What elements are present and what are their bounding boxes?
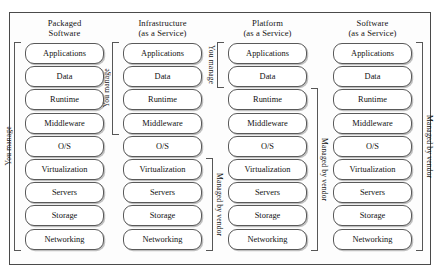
layer-box[interactable]: Middleware xyxy=(123,113,202,134)
layer-box[interactable]: O/S xyxy=(25,136,104,157)
column-header-line2: (as a Service) xyxy=(333,28,412,38)
layer-box[interactable]: Virtualization xyxy=(333,159,412,180)
layer-box[interactable]: Storage xyxy=(25,205,104,226)
bracket-platform-as-a-service-right xyxy=(311,88,318,250)
bracket-infrastructure-as-a-service-right xyxy=(206,158,213,251)
layer-box[interactable]: Virtualization xyxy=(123,159,202,180)
column-header-line1: Packaged xyxy=(25,18,104,28)
column-header-platform-as-a-service: Platform(as a Service) xyxy=(228,18,307,38)
column-infrastructure-as-a-service: Infrastructure(as a Service)Applications… xyxy=(123,13,202,264)
layer-box[interactable]: Data xyxy=(228,66,307,87)
bracket-label-platform-as-a-service-right: Managed by vendor xyxy=(320,88,329,250)
layer-box[interactable]: Data xyxy=(333,66,412,87)
bracket-label-packaged-software-left: You manage xyxy=(4,42,13,251)
bracket-packaged-software-left xyxy=(14,42,21,251)
layer-box[interactable]: Networking xyxy=(333,229,412,250)
layer-box[interactable]: Servers xyxy=(123,182,202,203)
layer-box[interactable]: Servers xyxy=(25,182,104,203)
layer-box[interactable]: Storage xyxy=(228,205,307,226)
layer-stack-platform-as-a-service: ApplicationsDataRuntimeMiddlewareO/SVirt… xyxy=(228,43,307,252)
layer-box[interactable]: O/S xyxy=(123,136,202,157)
layer-box[interactable]: Runtime xyxy=(333,89,412,110)
layer-box[interactable]: O/S xyxy=(228,136,307,157)
column-software-as-a-service: Software(as a Service)ApplicationsDataRu… xyxy=(333,13,412,264)
bracket-label-platform-as-a-service-left: You manage xyxy=(207,42,216,88)
layer-box[interactable]: Networking xyxy=(228,229,307,250)
layer-box[interactable]: Applications xyxy=(123,43,202,64)
column-packaged-software: PackagedSoftwareApplicationsDataRuntimeM… xyxy=(25,13,104,264)
layer-box[interactable]: Runtime xyxy=(228,89,307,110)
layer-box[interactable]: Storage xyxy=(123,205,202,226)
bracket-platform-as-a-service-left xyxy=(217,42,224,88)
layer-box[interactable]: Virtualization xyxy=(228,159,307,180)
column-header-software-as-a-service: Software(as a Service) xyxy=(333,18,412,38)
layer-box[interactable]: Servers xyxy=(228,182,307,203)
layer-box[interactable]: Runtime xyxy=(123,89,202,110)
layer-box[interactable]: Networking xyxy=(25,229,104,250)
bracket-software-as-a-service-right xyxy=(416,42,423,251)
layer-box[interactable]: Virtualization xyxy=(25,159,104,180)
column-header-line2: Software xyxy=(25,28,104,38)
layer-box[interactable]: Servers xyxy=(333,182,412,203)
layer-box[interactable]: Networking xyxy=(123,229,202,250)
layer-box[interactable]: Middleware xyxy=(228,113,307,134)
layer-box[interactable]: O/S xyxy=(333,136,412,157)
column-header-line1: Platform xyxy=(228,18,307,28)
layer-box[interactable]: Runtime xyxy=(25,89,104,110)
bracket-infrastructure-as-a-service-left xyxy=(112,42,119,135)
layer-box[interactable]: Applications xyxy=(333,43,412,64)
bracket-label-infrastructure-as-a-service-left: You manage xyxy=(102,42,111,135)
column-header-line2: (as a Service) xyxy=(123,28,202,38)
column-platform-as-a-service: Platform(as a Service)ApplicationsDataRu… xyxy=(228,13,307,264)
layer-box[interactable]: Middleware xyxy=(25,113,104,134)
layer-stack-packaged-software: ApplicationsDataRuntimeMiddlewareO/SVirt… xyxy=(25,43,104,252)
column-header-infrastructure-as-a-service: Infrastructure(as a Service) xyxy=(123,18,202,38)
layer-stack-software-as-a-service: ApplicationsDataRuntimeMiddlewareO/SVirt… xyxy=(333,43,412,252)
layer-stack-infrastructure-as-a-service: ApplicationsDataRuntimeMiddlewareO/SVirt… xyxy=(123,43,202,252)
bracket-label-software-as-a-service-right: Managed by vendor xyxy=(425,42,434,251)
layer-box[interactable]: Storage xyxy=(333,205,412,226)
bracket-label-infrastructure-as-a-service-right: Managed by vendor xyxy=(215,158,224,251)
column-header-line1: Infrastructure xyxy=(123,18,202,28)
column-header-line1: Software xyxy=(333,18,412,28)
layer-box[interactable]: Applications xyxy=(25,43,104,64)
column-header-packaged-software: PackagedSoftware xyxy=(25,18,104,38)
layer-box[interactable]: Middleware xyxy=(333,113,412,134)
service-model-diagram: PackagedSoftwareApplicationsDataRuntimeM… xyxy=(9,12,431,265)
layer-box[interactable]: Applications xyxy=(228,43,307,64)
layer-box[interactable]: Data xyxy=(123,66,202,87)
column-header-line2: (as a Service) xyxy=(228,28,307,38)
layer-box[interactable]: Data xyxy=(25,66,104,87)
